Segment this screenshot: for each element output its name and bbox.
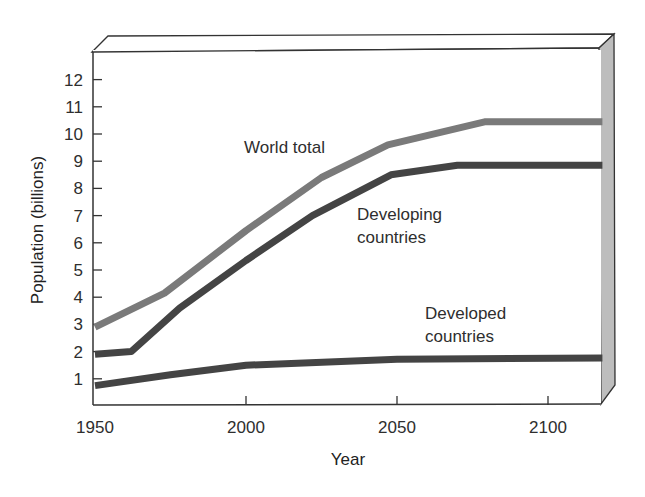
y-tick-label: 6 <box>74 234 83 253</box>
label-developed-line2: countries <box>425 327 494 346</box>
chart-frame-3d <box>92 34 615 405</box>
y-tick-label: 11 <box>65 98 83 117</box>
label-developing-line2: countries <box>357 228 426 247</box>
label-developing-line1: Developing <box>357 205 442 224</box>
label-developed-line1: Developed <box>425 304 506 323</box>
x-tick-label: 1950 <box>76 418 114 437</box>
y-axis-title: Population (billions) <box>28 156 47 304</box>
x-axis <box>93 404 601 405</box>
population-chart: 123456789101112 1950200020502100 World t… <box>0 0 645 497</box>
y-tick-label: 9 <box>74 152 83 171</box>
label-world-total: World total <box>244 138 325 157</box>
y-tick-label: 4 <box>74 288 83 307</box>
y-tick-label: 7 <box>74 207 83 226</box>
y-tick-label: 3 <box>74 315 83 334</box>
y-tick-label: 8 <box>74 179 83 198</box>
box-right-face <box>599 34 615 404</box>
x-axis-title: Year <box>331 450 366 469</box>
x-tick-label: 2000 <box>227 418 265 437</box>
y-tick-label: 1 <box>74 370 83 389</box>
y-tick-label: 5 <box>74 261 83 280</box>
y-tick-label: 2 <box>74 343 83 362</box>
y-tick-label: 10 <box>64 125 83 144</box>
x-tick-label: 2100 <box>529 418 567 437</box>
plot-area <box>93 50 601 405</box>
x-tick-label: 2050 <box>378 418 416 437</box>
y-tick-label: 12 <box>64 71 83 90</box>
